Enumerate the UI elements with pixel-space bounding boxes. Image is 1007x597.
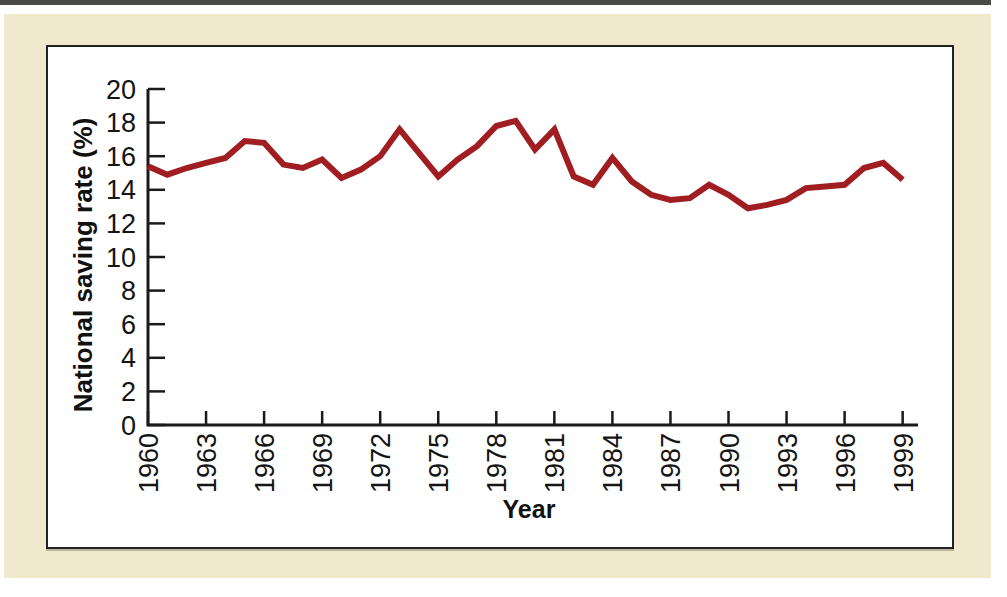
- x-tick-label: 1960: [134, 433, 164, 493]
- scanned-figure: 0246810121416182019601963196619691972197…: [0, 0, 1007, 597]
- y-tick-label: 18: [106, 108, 136, 138]
- y-axis-title: National saving rate (%): [68, 118, 98, 413]
- x-tick-label: 1990: [715, 433, 745, 493]
- line-chart: 0246810121416182019601963196619691972197…: [48, 47, 952, 547]
- y-tick-label: 8: [121, 276, 136, 306]
- x-tick-label: 1969: [308, 433, 338, 493]
- y-tick-label: 10: [106, 243, 136, 273]
- x-tick-label: 1966: [250, 433, 280, 493]
- x-tick-label: 1963: [192, 433, 222, 493]
- y-tick-label: 20: [106, 75, 136, 105]
- x-tick-label: 1984: [598, 433, 628, 493]
- x-tick-label: 1996: [831, 433, 861, 493]
- y-tick-label: 12: [106, 209, 136, 239]
- x-tick-label: 1993: [773, 433, 803, 493]
- chart-panel: 0246810121416182019601963196619691972197…: [46, 45, 954, 549]
- x-tick-label: 1987: [656, 433, 686, 493]
- x-tick-label: 1975: [424, 433, 454, 493]
- page-edge-stripe: [0, 0, 991, 5]
- y-tick-label: 4: [121, 343, 136, 373]
- y-tick-label: 16: [106, 142, 136, 172]
- y-tick-label: 6: [121, 310, 136, 340]
- axis-spine: [148, 89, 918, 425]
- x-tick-label: 1981: [540, 433, 570, 493]
- x-axis-title: Year: [503, 495, 556, 523]
- figure-background: 0246810121416182019601963196619691972197…: [4, 14, 991, 578]
- y-tick-label: 14: [106, 175, 136, 205]
- saving-rate-line: [148, 121, 903, 208]
- x-tick-label: 1978: [482, 433, 512, 493]
- x-tick-label: 1972: [366, 433, 396, 493]
- y-tick-label: 2: [121, 377, 136, 407]
- x-tick-label: 1999: [889, 433, 919, 493]
